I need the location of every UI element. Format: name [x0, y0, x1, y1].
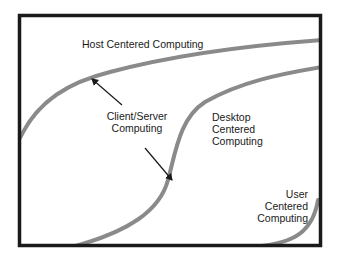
desktop-centered-label-line2: Centered: [212, 123, 263, 135]
client-server-label-line2: Computing: [104, 122, 170, 134]
user-centered-label-line3: Computing: [250, 212, 308, 224]
host-centered-curve: [20, 40, 322, 138]
desktop-centered-label-line1: Desktop: [212, 111, 263, 123]
desktop-centered-label: Desktop Centered Computing: [212, 111, 263, 147]
client-server-arrow-upper: [92, 79, 122, 105]
client-server-label: Client/Server Computing: [104, 110, 170, 134]
client-server-arrow-lower: [145, 148, 172, 180]
desktop-centered-label-line3: Computing: [212, 135, 263, 147]
user-centered-label: User Centered Computing: [250, 188, 308, 224]
user-centered-label-line2: Centered: [250, 200, 308, 212]
host-centered-label: Host Centered Computing: [82, 38, 203, 50]
client-server-label-line1: Client/Server: [104, 110, 170, 122]
user-centered-label-line1: User: [250, 188, 308, 200]
